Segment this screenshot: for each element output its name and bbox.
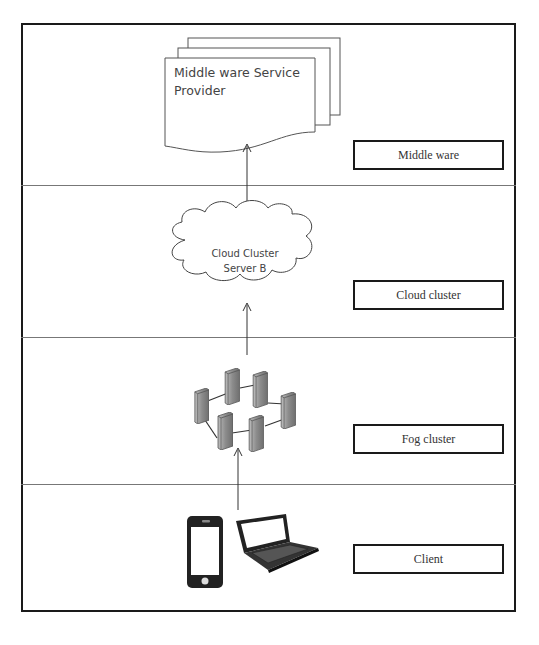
layer-label-client: Client <box>353 544 504 574</box>
layer-label-middleware: Middle ware <box>353 140 504 170</box>
server-cluster-icon <box>195 368 296 452</box>
cloud-node-line2: Server B <box>205 261 285 276</box>
middleware-node-line2: Provider <box>174 82 324 100</box>
flow-arrows <box>234 144 251 510</box>
middleware-service-provider-label: Middle ware Service Provider <box>174 64 324 100</box>
cloud-cluster-server-label: Cloud Cluster Server B <box>205 246 285 276</box>
smartphone-icon <box>187 516 223 588</box>
middleware-node-line1: Middle ware Service <box>174 64 324 82</box>
layer-label-fog-cluster: Fog cluster <box>353 424 504 454</box>
layer-label-cloud-cluster: Cloud cluster <box>353 280 504 310</box>
laptop-icon <box>236 514 319 573</box>
cloud-node-line1: Cloud Cluster <box>205 246 285 261</box>
